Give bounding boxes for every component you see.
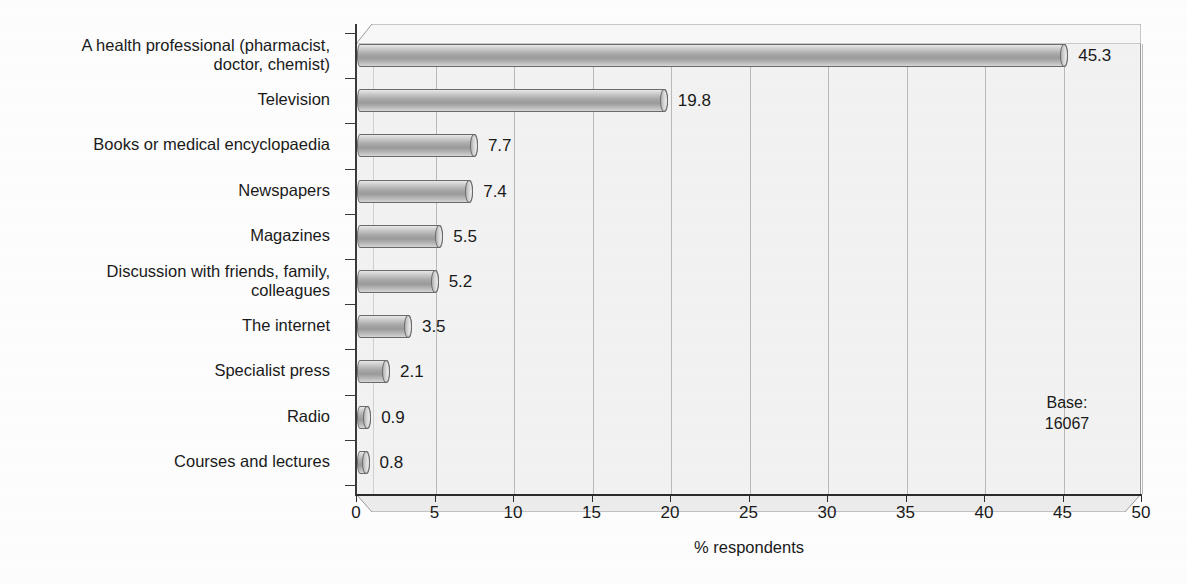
bar [357,406,371,429]
y-axis-tick [345,78,356,79]
category-label-line: Television [0,90,330,109]
category-label-line: Courses and lectures [0,452,330,471]
x-axis-tick-label: 35 [896,503,915,523]
y-axis-tick [345,259,356,260]
bar-value-label: 0.8 [380,451,404,474]
bar-value-label: 5.2 [449,270,473,293]
x-axis-tick [356,494,357,502]
x-axis-tick-label: 50 [1132,503,1151,523]
x-axis-tick [513,494,514,502]
x-axis-tick-label: 25 [739,503,758,523]
category-label: Magazines [0,226,330,245]
category-axis-labels: A health professional (pharmacist,doctor… [0,0,330,500]
category-label-line: Specialist press [0,361,330,380]
base-annotation-label: Base: [1012,392,1122,413]
bar [357,225,443,248]
x-axis-tick [906,494,907,502]
category-label-line: Radio [0,407,330,426]
x-axis-tick [984,494,985,502]
y-axis-tick [345,440,356,441]
bar [357,44,1068,67]
category-label-line: colleagues [0,281,330,300]
category-label: A health professional (pharmacist,doctor… [0,36,330,74]
bar [357,360,390,383]
y-axis-tick [345,349,356,350]
bar-value-label: 7.4 [483,180,507,203]
x-axis-tick [749,494,750,502]
bar-value-label: 5.5 [453,225,477,248]
base-annotation: Base: 16067 [1012,392,1122,434]
bar [357,89,668,112]
category-label: The internet [0,316,330,335]
x-axis-tick-label: 15 [582,503,601,523]
y-axis-tick [345,123,356,124]
bar [357,315,412,338]
y-axis-tick [345,214,356,215]
category-label: Specialist press [0,361,330,380]
category-label: Courses and lectures [0,452,330,471]
bar [357,180,473,203]
bar-value-label: 45.3 [1078,44,1111,67]
bar-value-label: 3.5 [422,315,446,338]
y-axis-tick [345,33,356,34]
category-label-line: doctor, chemist) [0,55,330,74]
gridline [907,44,908,494]
x-axis-tick [1063,494,1064,502]
x-axis-tick-label: 5 [430,503,439,523]
category-label: Books or medical encyclopaedia [0,135,330,154]
category-label-line: Magazines [0,226,330,245]
bar-value-label: 19.8 [678,89,711,112]
y-axis-tick [345,304,356,305]
category-label: Television [0,90,330,109]
x-axis-tick-label: 45 [1053,503,1072,523]
category-label: Radio [0,407,330,426]
category-label-line: Newspapers [0,181,330,200]
y-axis-tick [345,485,356,486]
y-axis-tick [345,395,356,396]
bar-value-label: 7.7 [488,134,512,157]
gridline [985,44,986,494]
gridline [671,44,672,494]
x-axis-tick [592,494,593,502]
category-label: Newspapers [0,181,330,200]
x-axis-tick [435,494,436,502]
x-axis-tick-label: 20 [661,503,680,523]
x-axis-tick [670,494,671,502]
bar [357,451,370,474]
plot-top-face-3d [356,24,1141,44]
horizontal-bar-chart-figure: A health professional (pharmacist,doctor… [0,0,1187,584]
bar-value-label: 2.1 [400,360,424,383]
gridline [828,44,829,494]
x-axis-tick [827,494,828,502]
x-axis-tick [1141,494,1142,502]
gridline [750,44,751,494]
y-axis-line [355,24,357,496]
bar-value-label: 0.9 [381,406,405,429]
x-axis-tick-label: 0 [351,503,360,523]
x-axis-tick-label: 10 [504,503,523,523]
x-axis-tick-label: 40 [975,503,994,523]
category-label-line: A health professional (pharmacist, [0,36,330,55]
base-annotation-value: 16067 [1012,413,1122,434]
bar [357,270,439,293]
category-label-line: Books or medical encyclopaedia [0,135,330,154]
x-axis-title: % respondents [356,538,1142,557]
category-label: Discussion with friends, family,colleagu… [0,262,330,300]
category-label-line: Discussion with friends, family, [0,262,330,281]
x-axis-tick-label: 30 [818,503,837,523]
bar [357,134,478,157]
gridline [1142,44,1143,494]
category-label-line: The internet [0,316,330,335]
y-axis-tick [345,169,356,170]
